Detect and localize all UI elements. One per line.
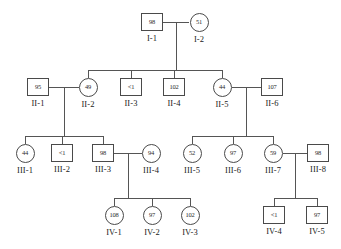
- pedigree-symbol-iv-1: 108: [105, 206, 124, 225]
- pedigree-symbol-iii-8: 98: [307, 144, 329, 162]
- pedigree-symbol-i-2: 51: [190, 13, 209, 32]
- pedigree-label-ii-4: II-4: [150, 99, 198, 108]
- pedigree-label-ii-5: II-5: [198, 100, 246, 109]
- pedigree-label-iii-8: III-8: [294, 165, 341, 174]
- pedigree-symbol-iii-3: 98: [92, 144, 114, 162]
- pedigree-label-ii-2: II-2: [64, 100, 112, 109]
- pedigree-label-ii-3: II-3: [107, 99, 155, 108]
- pedigree-symbol-iv-5: 97: [306, 206, 328, 224]
- pedigree-label-i-2: I-2: [175, 35, 223, 44]
- pedigree-label-iv-5: IV-5: [293, 227, 341, 236]
- pedigree-symbol-ii-2: 49: [79, 78, 98, 97]
- pedigree-symbol-ii-6: 107: [261, 78, 283, 96]
- pedigree-symbol-iii-5: 52: [183, 144, 202, 163]
- pedigree-symbol-ii-1: 95: [27, 78, 49, 96]
- pedigree-symbol-iv-4: <1: [263, 206, 285, 224]
- pedigree-symbol-iii-2: <1: [51, 144, 73, 162]
- pedigree-symbol-iv-3: 102: [181, 206, 200, 225]
- pedigree-symbol-iii-6: 97: [224, 144, 243, 163]
- pedigree-symbol-ii-4: 102: [163, 78, 185, 96]
- pedigree-label-i-1: I-1: [128, 34, 176, 43]
- pedigree-label-iv-4: IV-4: [250, 227, 298, 236]
- pedigree-label-iii-7: III-7: [249, 166, 297, 175]
- pedigree-symbol-iv-2: 97: [143, 206, 162, 225]
- pedigree-symbol-iii-7: 59: [264, 144, 283, 163]
- pedigree-symbol-iii-4: 94: [142, 144, 161, 163]
- pedigree-symbol-i-1: 98: [141, 13, 163, 31]
- pedigree-label-ii-6: II-6: [248, 99, 296, 108]
- pedigree-symbol-ii-3: <1: [120, 78, 142, 96]
- pedigree-chart: 98I-151I-295II-149II-2<1II-3102II-444II-…: [0, 0, 341, 249]
- pedigree-label-iii-3: III-3: [79, 165, 127, 174]
- pedigree-symbol-ii-5: 44: [213, 78, 232, 97]
- pedigree-symbol-iii-1: 44: [16, 144, 35, 163]
- pedigree-label-iv-3: IV-3: [166, 228, 214, 237]
- pedigree-label-ii-1: II-1: [14, 99, 62, 108]
